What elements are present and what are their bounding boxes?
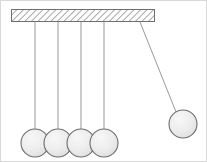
ball-5-raised: [169, 110, 197, 138]
newtons-cradle-figure: [0, 0, 207, 162]
support-bar: [12, 10, 155, 22]
resting-balls-group: [21, 129, 118, 157]
cradle-diagram-canvas: [0, 0, 207, 162]
support-bar-hatch-fill: [12, 10, 155, 22]
ball-4: [90, 129, 118, 157]
hanging-strings-group: [35, 22, 104, 131]
string-5-raised: [140, 22, 176, 112]
